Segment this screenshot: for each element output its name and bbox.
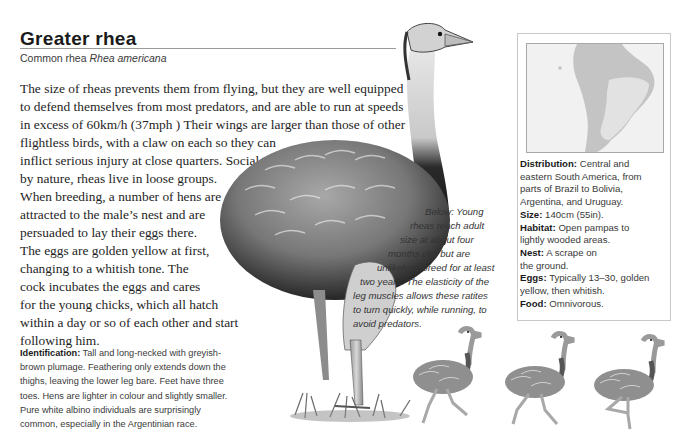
caption-line: size at about four [400,233,474,247]
size-label: Size: [520,209,542,220]
caption-line: rheas reach adult [410,219,484,233]
young-rhea-running-2 [495,330,585,430]
distribution-value: Argentina, and Uruguay. [520,196,670,209]
young-rhea-running-3 [588,333,678,431]
food-label: Food: [520,298,547,309]
identification-line: Tall and long-necked with greyish- [80,348,221,358]
caption-line: leg muscles allows these ratites [353,289,488,303]
body-line: by nature, rheas live in loose groups. [20,170,217,187]
distribution-label: Distribution: [520,158,577,169]
body-line: for the young chicks, which all hatch [20,296,218,313]
scientific-name: Rhea americana [89,52,166,64]
habitat-value: Open pampas to [556,222,630,233]
eggs-value: Typically 13–30, golden [547,272,650,283]
distribution-value: Central and [577,158,629,169]
young-rhea-running-1 [405,325,495,425]
body-line: attracted to the male’s nest and are [20,206,205,223]
distribution-map [526,43,664,153]
subtitle: Common rhea Rhea americana [20,52,167,64]
eggs-label: Eggs: [520,272,547,283]
distribution-value: eastern South America, from [520,171,670,184]
identification-label: Identification: [20,348,80,358]
caption-line: unlikely to breed for at least [377,261,494,275]
fact-list: Distribution: Central and eastern South … [520,158,670,310]
body-line: changing to a whitish tone. The [20,260,189,277]
nest-value: the ground. [520,260,670,273]
food-value: Omnivorous. [547,298,604,309]
body-line: The eggs are golden yellow at first, [20,242,209,259]
caption-line: to turn quickly, while running, to [353,303,487,317]
nest-value: A scrape on [544,247,597,258]
size-value: 140cm (55in). [542,209,603,220]
eggs-value: yellow, then whitish. [520,285,670,298]
nest-label: Nest: [520,247,544,258]
habitat-value: lightly wooded areas. [520,234,670,247]
caption-line: Below: Young [425,205,484,219]
common-name: Common rhea [20,52,87,64]
body-line: cock incubates the eggs and cares [20,278,200,295]
caption-line: two years. The elasticity of the [360,275,489,289]
species-fact-box: Distribution: Central and eastern South … [517,33,671,321]
page-title: Greater rhea [20,28,137,50]
habitat-label: Habitat: [520,222,556,233]
body-line: persuaded to lay their eggs there. [20,224,197,241]
caption-line: months old, but are [388,247,470,261]
body-line: When breeding, a number of hens are [20,188,221,205]
distribution-value: parts of Brazil to Bolivia, [520,183,670,196]
